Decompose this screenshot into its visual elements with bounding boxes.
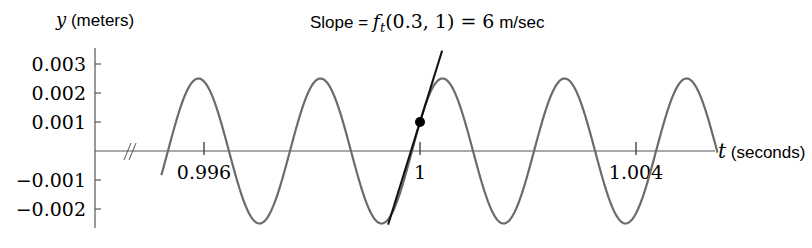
y-tick-label: 0.001 [32,111,86,133]
x-tick-label: 1 [414,161,426,183]
y-tick-label: −0.001 [16,169,86,191]
x-tick-label: 0.996 [177,161,231,183]
tangent-line [388,51,442,225]
y-tick-label: −0.002 [16,198,86,220]
x-axis-label: t (seconds) [718,139,805,163]
y-tick-label: 0.003 [32,53,86,75]
x-tick-label: 1.004 [609,161,663,183]
y-tick-label: 0.002 [32,82,86,104]
data-point [415,117,425,127]
y-axis-label: y (meters) [55,9,134,30]
chart-title: Slope = ft(0.3, 1) = 6 m/sec [310,10,545,35]
chart: 0.0030.0020.001−0.001−0.0020.99611.004 y… [0,0,812,248]
